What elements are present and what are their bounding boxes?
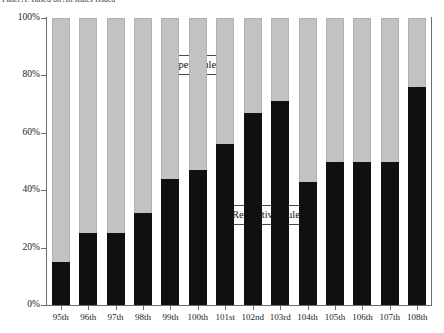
bar-104th [299, 18, 317, 305]
y-axis-labels: 0%20%40%60%80%100% [0, 0, 40, 333]
bar-101st [216, 18, 234, 305]
x-axis-tick [88, 305, 89, 310]
bar-segment-restrictive [216, 144, 234, 305]
x-axis-tick [253, 305, 254, 310]
bar-segment-restrictive [107, 233, 125, 305]
x-axis-tick [116, 305, 117, 310]
bar-segment-restrictive [353, 162, 371, 306]
x-axis-tick [198, 305, 199, 310]
y-axis-tick [41, 75, 47, 76]
bar-segment-restrictive [189, 170, 207, 305]
x-axis-tick [335, 305, 336, 310]
bar-105th [326, 18, 344, 305]
bar-103rd [271, 18, 289, 305]
bar-segment-restrictive [134, 213, 152, 305]
bar-100th [189, 18, 207, 305]
bar-segment-restrictive [271, 101, 289, 305]
bar-106th [353, 18, 371, 305]
y-axis-tick-label: 100% [2, 13, 40, 23]
y-axis-tick-label: 20% [2, 243, 40, 253]
y-axis-tick [41, 18, 47, 19]
y-axis-tick [41, 133, 47, 134]
y-axis-tick [41, 248, 47, 249]
bar-segment-restrictive [52, 262, 70, 305]
bar-107th [381, 18, 399, 305]
x-axis-tick [143, 305, 144, 310]
x-axis-tick [308, 305, 309, 310]
bar-102nd [244, 18, 262, 305]
y-axis-tick [41, 190, 47, 191]
bar-segment-restrictive [161, 179, 179, 305]
x-axis-tick [61, 305, 62, 310]
stacked-bar-chart: Panel A: Based on All Rules Issued 0%20%… [0, 0, 444, 333]
plot-area [47, 18, 431, 305]
bar-segment-restrictive [381, 162, 399, 306]
bar-segment-restrictive [299, 182, 317, 305]
x-axis-tick [280, 305, 281, 310]
bar-segment-restrictive [408, 87, 426, 305]
y-axis-tick-label: 40% [2, 185, 40, 195]
bar-97th [107, 18, 125, 305]
x-axis-tick [417, 305, 418, 310]
x-axis-tick [362, 305, 363, 310]
bar-96th [79, 18, 97, 305]
x-axis-tick [170, 305, 171, 310]
bar-95th [52, 18, 70, 305]
x-axis-line [46, 305, 432, 306]
x-axis-tick [225, 305, 226, 310]
y-axis-tick-label: 0% [2, 300, 40, 310]
bar-segment-restrictive [244, 113, 262, 305]
x-axis-tick [390, 305, 391, 310]
plot-right-border [431, 17, 432, 306]
bar-108th [408, 18, 426, 305]
bar-segment-restrictive [79, 233, 97, 305]
bar-99th [161, 18, 179, 305]
x-axis-label-108th: 108th [396, 312, 438, 322]
y-axis-tick-label: 60% [2, 128, 40, 138]
y-axis-tick [41, 305, 47, 306]
bar-98th [134, 18, 152, 305]
bar-segment-restrictive [326, 162, 344, 306]
y-axis-tick-label: 80% [2, 70, 40, 80]
